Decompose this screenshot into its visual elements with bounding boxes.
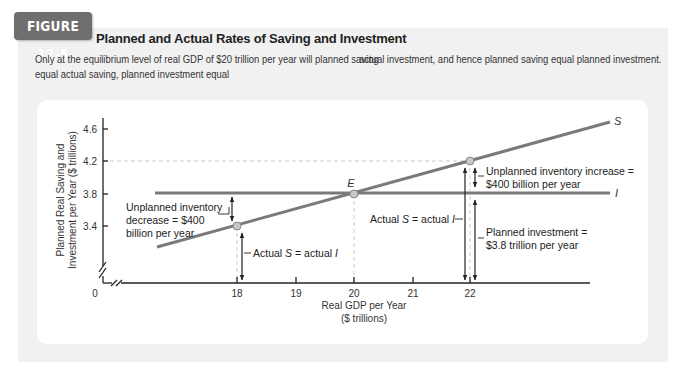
svg-text:21: 21 xyxy=(407,288,419,299)
curve-label-S: S xyxy=(614,115,622,127)
svg-text:($ trillions): ($ trillions) xyxy=(341,313,387,324)
annotation-increase: Unplanned inventory increase = $400 bill… xyxy=(486,165,634,190)
svg-text:3.4: 3.4 xyxy=(83,221,97,232)
annotation-planned-investment: Planned investment = $3.8 trillion per y… xyxy=(486,226,587,251)
svg-text:Unplanned inventory increase =: Unplanned inventory increase = xyxy=(486,165,634,177)
svg-text:$3.8 trillion per year: $3.8 trillion per year xyxy=(486,239,579,251)
svg-text:0: 0 xyxy=(92,288,98,299)
svg-text:billion per year: billion per year xyxy=(126,227,195,239)
point-18 xyxy=(233,222,241,230)
svg-text:4.6: 4.6 xyxy=(83,124,97,135)
annotation-actual-18: Actual S = actual I xyxy=(253,247,338,259)
svg-text:Unplanned inventory: Unplanned inventory xyxy=(126,201,223,213)
curve-label-I: I xyxy=(615,187,618,199)
point-22 xyxy=(466,157,474,165)
svg-text:Investment per Year ($ trillio: Investment per Year ($ trillions) xyxy=(67,131,78,269)
svg-text:decrease = $400: decrease = $400 xyxy=(126,214,205,226)
svg-text:3.8: 3.8 xyxy=(83,189,97,200)
x-axis-title: Real GDP per Year ($ trillions) xyxy=(322,300,408,324)
svg-text:Real GDP per Year: Real GDP per Year xyxy=(322,300,408,311)
svg-text:20: 20 xyxy=(348,288,360,299)
svg-text:18: 18 xyxy=(231,288,243,299)
svg-text:22: 22 xyxy=(464,288,476,299)
point-label-E: E xyxy=(347,177,355,189)
svg-text:$400 billion per year: $400 billion per year xyxy=(486,178,581,190)
svg-text:Planned Real Saving and: Planned Real Saving and xyxy=(55,144,66,257)
svg-text:19: 19 xyxy=(290,288,302,299)
annotation-actual-22: Actual S = actual I xyxy=(370,213,455,225)
svg-text:4.2: 4.2 xyxy=(83,156,97,167)
svg-text:Planned investment =: Planned investment = xyxy=(486,226,587,238)
x-tick-labels: 0 18 19 20 21 22 xyxy=(92,288,476,299)
y-tick-labels: 4.6 4.2 3.8 3.4 xyxy=(83,124,97,232)
y-axis-title: Planned Real Saving and Investment per Y… xyxy=(55,131,78,269)
chart: 4.6 4.2 3.8 3.4 0 18 19 20 21 22 Real GD… xyxy=(0,0,683,376)
point-E xyxy=(350,190,358,198)
